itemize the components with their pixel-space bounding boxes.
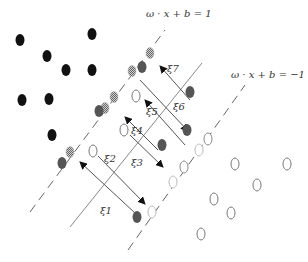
positive-margin-label: ω · x + b = 1 xyxy=(146,8,212,19)
xi7-label: ξ7 xyxy=(167,63,180,74)
xi4-label: ξ4 xyxy=(131,125,143,136)
class-b-points xyxy=(197,158,291,240)
xi2-label: ξ2 xyxy=(104,153,116,164)
xi3-label: ξ3 xyxy=(131,157,143,168)
decision-boundary xyxy=(70,63,202,227)
slack-points-dark xyxy=(58,61,195,223)
xi5-label: ξ5 xyxy=(146,106,158,117)
negative-margin-label: ω · x + b = −1 xyxy=(231,69,305,80)
xi6-label: ξ6 xyxy=(173,101,186,112)
slack-arrows xyxy=(80,66,190,213)
xi1-label: ξ1 xyxy=(100,205,112,216)
class-a-points xyxy=(16,28,97,141)
svm-diagram: ω · x + b = 1 ω · x + b = −1 ξ1 ξ2 ξ3 ξ4… xyxy=(0,0,308,262)
support-vectors-b xyxy=(148,144,203,218)
